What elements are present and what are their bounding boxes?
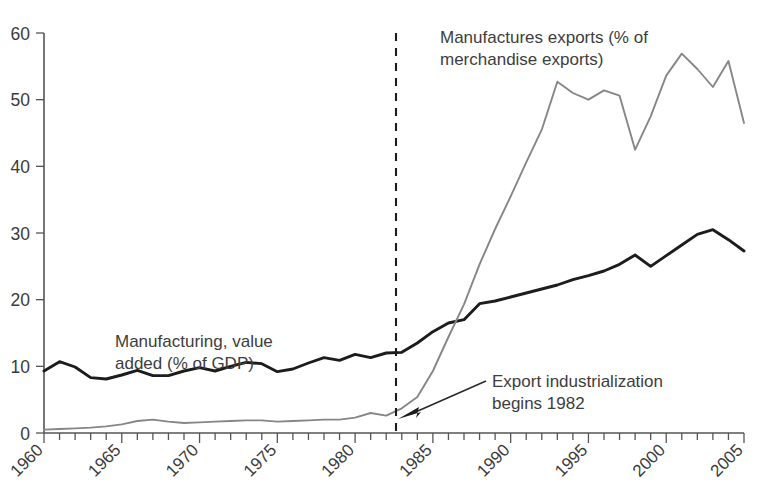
annotations-group: Manufacturing, valueadded (% of GDP)Manu… — [115, 28, 663, 413]
x-tick-label: 1995 — [551, 440, 591, 480]
annotation-line: Manufacturing, value — [115, 332, 273, 351]
annotation-line: merchandise exports) — [440, 50, 603, 69]
y-tick-label: 30 — [11, 224, 31, 244]
x-tick-label: 1965 — [84, 440, 124, 480]
annotation-line: added (% of GDP) — [115, 354, 254, 373]
event-marker-1982 — [396, 33, 486, 433]
x-tick-label: 2005 — [707, 440, 747, 480]
y-tick-label: 40 — [11, 157, 31, 177]
x-tick-label: 1975 — [240, 440, 280, 480]
x-tick-label: 1980 — [318, 440, 358, 480]
x-tick-label: 1960 — [7, 440, 47, 480]
chart-figure: 0102030405060 19601965197019751980198519… — [0, 0, 775, 498]
y-tick-label: 0 — [20, 424, 30, 444]
x-tick-label: 1985 — [396, 440, 436, 480]
y-tick-label: 50 — [11, 90, 31, 110]
x-tick-label: 1970 — [162, 440, 202, 480]
annotation-leader-line — [411, 381, 486, 414]
annotation-event-label: Export industrializationbegins 1982 — [492, 372, 663, 413]
x-tick-label: 1990 — [473, 440, 513, 480]
y-axis: 0102030405060 — [11, 24, 44, 444]
line-chart-svg: 0102030405060 19601965197019751980198519… — [0, 0, 775, 498]
annotation-line: Manufactures exports (% of — [440, 28, 648, 47]
annotation-line: begins 1982 — [492, 394, 585, 413]
y-tick-label: 10 — [11, 357, 31, 377]
annotation-manufacturing-label: Manufacturing, valueadded (% of GDP) — [115, 332, 273, 373]
x-axis: 1960196519701975198019851990199520002005 — [7, 433, 747, 481]
y-tick-label: 20 — [11, 290, 31, 310]
annotation-exports-label: Manufactures exports (% ofmerchandise ex… — [440, 28, 648, 69]
x-tick-label: 2000 — [629, 440, 669, 480]
y-tick-label: 60 — [11, 24, 31, 44]
annotation-line: Export industrialization — [492, 372, 663, 391]
